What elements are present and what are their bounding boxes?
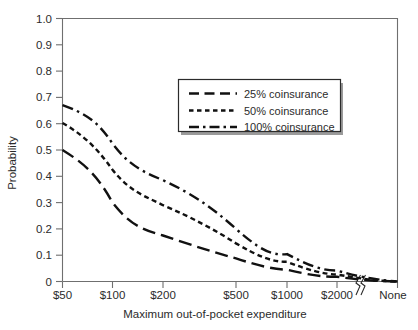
x-tick-label: $100	[100, 289, 126, 301]
y-tick-label: 1.0	[36, 13, 52, 25]
chart-legend: 25% coinsurance 50% coinsurance 100% coi…	[179, 80, 344, 136]
y-tick-label: 0.1	[36, 249, 52, 261]
x-tick-label: $200	[150, 289, 176, 301]
legend-label: 25% coinsurance	[244, 88, 328, 100]
x-axis-title: Maximum out-of-pocket expenditure	[123, 308, 306, 320]
legend-label: 50% coinsurance	[244, 105, 328, 117]
x-tick-label: $1000	[271, 289, 303, 301]
y-tick-label: 0.4	[36, 170, 53, 182]
probability-vs-expenditure-chart: 1.0 0.9 0.8 0.7 0.6 0.5 0.4 0.3 0.2 0.1 …	[0, 0, 418, 330]
x-tick-label: $50	[53, 289, 72, 301]
y-tick-label: 0.7	[36, 91, 52, 103]
legend-label: 100% coinsurance	[244, 121, 335, 133]
x-tick-label: $2000	[321, 289, 353, 301]
y-tick-label: 0.9	[36, 39, 52, 51]
y-axis-title: Probability	[6, 136, 18, 190]
x-tick-label: $500	[223, 289, 249, 301]
y-tick-label: 0	[46, 276, 52, 288]
x-tick-label: None	[379, 289, 407, 301]
y-tick-label: 0.3	[36, 197, 52, 209]
y-tick-label: 0.5	[36, 144, 52, 156]
chart-figure: 1.0 0.9 0.8 0.7 0.6 0.5 0.4 0.3 0.2 0.1 …	[0, 0, 418, 330]
y-tick-label: 0.8	[36, 65, 52, 77]
y-tick-label: 0.2	[36, 223, 52, 235]
y-tick-label: 0.6	[36, 118, 52, 130]
